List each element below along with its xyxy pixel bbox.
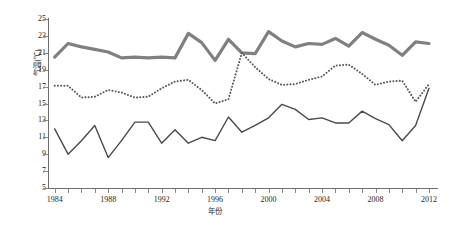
x-axis-tick-label: 1988 bbox=[88, 195, 128, 204]
x-axis-title: 年份 bbox=[0, 207, 459, 216]
x-axis-tick-label: 1984 bbox=[35, 195, 75, 204]
x-axis-title-text: 年份 bbox=[208, 207, 222, 216]
x-axis-tick-label: 2004 bbox=[302, 195, 342, 204]
x-axis-tick-labels: 19841988199219962000200420082012 bbox=[0, 0, 459, 225]
temperature-line-chart: 气温(℃) 5791113151719212325 19841988199219… bbox=[0, 0, 459, 225]
x-axis-tick-label: 1996 bbox=[195, 195, 235, 204]
x-axis-tick-label: 2008 bbox=[356, 195, 396, 204]
x-axis-tick-label: 2000 bbox=[249, 195, 289, 204]
x-axis-tick-label: 2012 bbox=[409, 195, 449, 204]
x-axis-tick-label: 1992 bbox=[142, 195, 182, 204]
